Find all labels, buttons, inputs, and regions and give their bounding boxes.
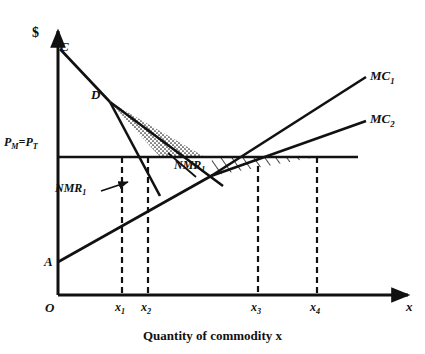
nmr1-label: NMR1 (55, 182, 86, 198)
mc2-label-sub: 2 (390, 119, 394, 129)
figure-caption-text: Quantity of commodity x (143, 328, 282, 343)
x-tick-x1: x1 (115, 301, 125, 317)
nmr2-label: NMR1 (174, 159, 205, 175)
demand-curve-lower (110, 102, 223, 186)
y-axis-label: $ (32, 26, 39, 40)
x-axis-label: x (406, 300, 413, 313)
price-label-p-transfer: P (25, 135, 32, 149)
x-tick-x3: x3 (251, 301, 261, 317)
x-tick-x3-sub: 3 (257, 307, 261, 316)
mc2-curve (211, 121, 366, 176)
x-tick-x2-sub: 2 (147, 307, 151, 316)
x-tick-x1-sub: 1 (121, 307, 125, 316)
point-d-label: D (91, 88, 100, 101)
figure-page: $ C D A O PM=PT MC1 MC2 NMR1 NMR1 x x1 x… (0, 0, 425, 354)
nmr1-label-base: NMR (55, 181, 82, 195)
demand-curve-upper (60, 49, 110, 102)
x-tick-x2: x2 (141, 301, 151, 317)
price-label-sub-m: M (11, 142, 18, 151)
origin-label: O (45, 301, 54, 314)
nmr1-curve (110, 102, 160, 196)
mc2-label-base: MC (370, 111, 390, 126)
mc2-label: MC2 (370, 112, 395, 128)
nmr1-label-sub: 1 (82, 188, 86, 197)
mc1-label: MC1 (370, 69, 395, 85)
nmr1-pointer-arrow (101, 182, 128, 191)
point-c-label: C (60, 40, 69, 53)
x-tick-x4-sub: 4 (316, 307, 320, 316)
nmr2-label-sub: 1 (201, 165, 205, 174)
price-label-sub-t: T (33, 142, 38, 151)
x-tick-x4: x4 (310, 301, 320, 317)
price-line-label: PM=PT (4, 136, 38, 152)
point-a-label: A (44, 255, 53, 268)
mc1-label-sub: 1 (390, 76, 394, 86)
mc1-label-base: MC (370, 68, 390, 83)
figure-caption: Quantity of commodity x (0, 328, 425, 344)
nmr2-label-base: NMR (174, 158, 201, 172)
